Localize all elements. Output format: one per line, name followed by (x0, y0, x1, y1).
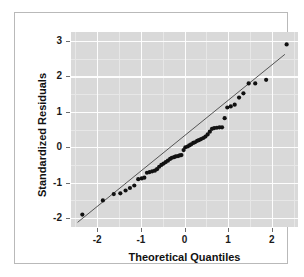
x-tick-label: 1 (218, 234, 238, 245)
data-point (285, 42, 289, 46)
data-point (237, 95, 241, 99)
data-point (223, 116, 227, 120)
x-tick-label: 2 (262, 234, 282, 245)
x-tick (185, 228, 186, 232)
qq-plot-figure: -2-10123 -2-1012 Theoretical Quantiles S… (0, 0, 304, 277)
plot-data-layer (71, 32, 298, 227)
y-axis-title: Standardized Residuals (36, 45, 48, 225)
data-point (241, 91, 245, 95)
y-tick (66, 147, 70, 148)
data-point (132, 183, 136, 187)
data-point (229, 104, 233, 108)
data-point (253, 81, 257, 85)
x-axis-title: Theoretical Quantiles (71, 251, 298, 263)
data-point (179, 153, 183, 157)
data-point (118, 191, 122, 195)
data-points-group (80, 42, 289, 216)
y-tick-label: -1 (48, 177, 62, 188)
y-tick-label: 2 (48, 70, 62, 81)
data-point (80, 212, 84, 216)
y-tick-label: -2 (48, 212, 62, 223)
y-tick-label: 3 (48, 35, 62, 46)
data-point (128, 186, 132, 190)
reference-line (78, 54, 285, 222)
y-tick (66, 112, 70, 113)
y-tick-label: 0 (48, 141, 62, 152)
data-point (112, 192, 116, 196)
y-tick (66, 41, 70, 42)
x-tick (272, 228, 273, 232)
x-tick (97, 228, 98, 232)
data-point (264, 78, 268, 82)
y-tick (66, 76, 70, 77)
y-tick-label: 1 (48, 106, 62, 117)
data-point (247, 81, 251, 85)
plot-panel (71, 32, 298, 227)
plot-frame: -2-10123 -2-1012 Theoretical Quantiles S… (14, 12, 288, 264)
x-tick-label: 0 (175, 234, 195, 245)
y-tick (66, 218, 70, 219)
data-point (233, 103, 237, 107)
data-point (101, 198, 105, 202)
x-tick-label: -2 (87, 234, 107, 245)
data-point (220, 125, 224, 129)
x-tick (141, 228, 142, 232)
x-tick-label: -1 (131, 234, 151, 245)
data-point (142, 176, 146, 180)
x-tick (228, 228, 229, 232)
data-point (136, 177, 140, 181)
y-tick (66, 183, 70, 184)
data-point (123, 188, 127, 192)
